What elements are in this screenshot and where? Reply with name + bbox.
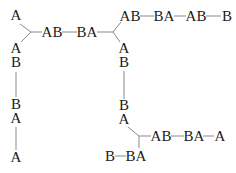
node-label: A (11, 7, 22, 23)
node-label: B (119, 54, 129, 70)
diagram-canvas: A AB BA AB BA AB B A B B A A A B B A AB … (0, 0, 236, 173)
node-label: BA (154, 8, 175, 24)
node-label: B (11, 54, 21, 70)
node-label: B (222, 8, 232, 24)
node-label: B (105, 148, 115, 164)
node-label: BA (77, 24, 98, 40)
node-label: AB (186, 8, 207, 24)
node-label: A (11, 149, 22, 165)
node-labels: A AB BA AB BA AB B A B B A A A B B A AB … (11, 7, 232, 165)
node-label: AB (120, 8, 141, 24)
node-label: A (11, 110, 22, 126)
node-label: BA (184, 128, 205, 144)
node-label: A (119, 111, 130, 127)
node-label: AB (42, 24, 63, 40)
node-label: BA (126, 148, 147, 164)
node-label: A (215, 128, 226, 144)
node-label: AB (151, 128, 172, 144)
